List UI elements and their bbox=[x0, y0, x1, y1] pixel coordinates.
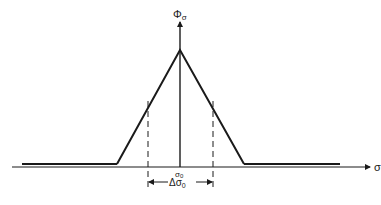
width-label: Δσ0 bbox=[169, 177, 186, 189]
distribution-diagram: Φσ σ σ0 Δσ0 bbox=[0, 0, 381, 205]
x-axis-label: σ bbox=[374, 161, 381, 173]
y-axis-label: Φσ bbox=[173, 8, 187, 22]
